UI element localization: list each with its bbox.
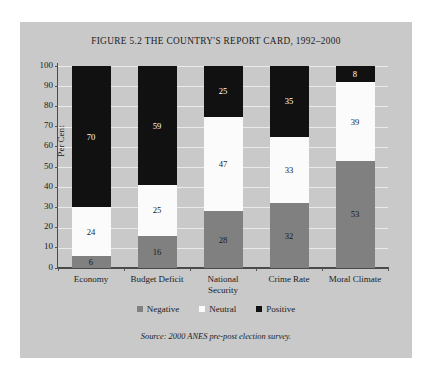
figure-panel: FIGURE 5.2 THE COUNTRY'S REPORT CARD, 19…	[20, 22, 412, 358]
bar-group[interactable]: 53398	[336, 66, 375, 268]
x-axis-label-line: Security	[190, 285, 256, 296]
bar-stack: 162559	[138, 66, 177, 268]
bar-segment-negative[interactable]: 6	[72, 256, 111, 268]
legend-label: Positive	[266, 304, 295, 314]
y-tick-label: 30	[44, 201, 53, 211]
legend-item-positive[interactable]: Positive	[256, 304, 295, 314]
bar-segment-negative[interactable]: 32	[270, 203, 309, 268]
y-tick-label: 80	[44, 100, 53, 110]
y-tick-label: 70	[44, 120, 53, 130]
x-axis-label-line: Economy	[58, 274, 124, 285]
y-tick-label: 50	[44, 161, 53, 171]
bar-segment-neutral[interactable]: 33	[270, 137, 309, 204]
x-tick-mark	[388, 268, 389, 271]
source-note: Source: 2000 ANES pre-post election surv…	[20, 332, 412, 341]
bar-segment-negative[interactable]: 16	[138, 236, 177, 268]
x-axis-label-moral-climate: Moral Climate	[322, 274, 388, 285]
bar-group[interactable]: 323335	[270, 66, 309, 268]
y-tick-label: 20	[44, 221, 53, 231]
bar-stack: 284725	[204, 66, 243, 268]
bar-group[interactable]: 284725	[204, 66, 243, 268]
x-axis-labels: EconomyBudget DeficitNationalSecurityCri…	[58, 270, 388, 304]
y-tick-label: 40	[44, 181, 53, 191]
x-tick-mark	[256, 268, 257, 271]
x-tick-mark	[322, 268, 323, 271]
bar-stack: 323335	[270, 66, 309, 268]
y-tick-label: 10	[44, 241, 53, 251]
bar-segment-positive[interactable]: 8	[336, 66, 375, 82]
x-axis-label-national-security: NationalSecurity	[190, 274, 256, 295]
chart-legend: NegativeNeutralPositive	[20, 304, 412, 314]
x-tick-mark	[124, 268, 125, 271]
y-tick-label: 100	[40, 60, 54, 70]
bar-segment-neutral[interactable]: 47	[204, 117, 243, 212]
legend-swatch-icon	[137, 306, 143, 312]
legend-label: Neutral	[209, 304, 236, 314]
x-axis-label-crime-rate: Crime Rate	[256, 274, 322, 285]
legend-swatch-icon	[256, 306, 262, 312]
legend-item-neutral[interactable]: Neutral	[199, 304, 236, 314]
chart-title: FIGURE 5.2 THE COUNTRY'S REPORT CARD, 19…	[20, 36, 412, 46]
x-axis-label-budget-deficit: Budget Deficit	[124, 274, 190, 285]
legend-item-negative[interactable]: Negative	[137, 304, 179, 314]
y-tick-label: 90	[44, 80, 53, 90]
bar-segment-negative[interactable]: 53	[336, 161, 375, 268]
gridline	[58, 268, 388, 269]
bar-stack: 62470	[72, 66, 111, 268]
x-axis-label-economy: Economy	[58, 274, 124, 285]
x-axis-label-line: Budget Deficit	[124, 274, 190, 285]
bar-segment-neutral[interactable]: 39	[336, 82, 375, 161]
x-tick-mark	[190, 268, 191, 271]
y-tick-label: 60	[44, 140, 53, 150]
bar-group[interactable]: 162559	[138, 66, 177, 268]
bar-series-layer: 6247016255928472532333553398	[58, 66, 388, 268]
bar-stack: 53398	[336, 66, 375, 268]
bar-group[interactable]: 62470	[72, 66, 111, 268]
y-tick-label: 0	[49, 262, 54, 272]
bar-segment-positive[interactable]: 35	[270, 66, 309, 137]
bar-segment-neutral[interactable]: 25	[138, 185, 177, 236]
legend-swatch-icon	[199, 306, 205, 312]
x-axis-label-line: Moral Climate	[322, 274, 388, 285]
bar-segment-neutral[interactable]: 24	[72, 207, 111, 255]
x-tick-mark	[58, 268, 59, 271]
bar-segment-negative[interactable]: 28	[204, 211, 243, 268]
bar-segment-positive[interactable]: 70	[72, 66, 111, 207]
bar-segment-positive[interactable]: 59	[138, 66, 177, 185]
plot-area: Per Cent 0102030405060708090100 62470162…	[58, 66, 388, 268]
x-axis-label-line: National	[190, 274, 256, 285]
legend-label: Negative	[147, 304, 179, 314]
x-axis-label-line: Crime Rate	[256, 274, 322, 285]
bar-segment-positive[interactable]: 25	[204, 66, 243, 117]
